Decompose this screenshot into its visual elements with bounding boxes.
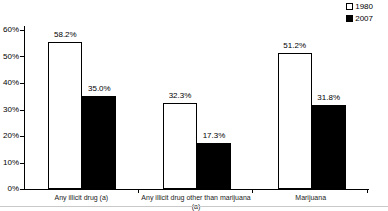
bar-column-1980-2: 51.2% xyxy=(278,30,312,189)
bar-1980-0 xyxy=(48,42,82,189)
bar-value-label: 17.3% xyxy=(203,131,226,140)
y-axis-tick-label: 30% xyxy=(0,105,19,115)
legend-entry-1980: 1980 xyxy=(346,2,373,11)
legend-entry-2007: 2007 xyxy=(346,14,373,23)
x-axis-category-label: Marijuana xyxy=(253,193,368,211)
y-axis-tick-label: 50% xyxy=(0,52,19,62)
legend-label: 1980 xyxy=(355,2,373,11)
legend-label: 2007 xyxy=(355,14,373,23)
bar-group-2: 51.2%31.8% xyxy=(254,30,369,189)
bar-column-2007-2: 31.8% xyxy=(312,30,346,189)
bar-column-1980-0: 58.2% xyxy=(48,30,82,189)
bar-column-2007-0: 35.0% xyxy=(82,30,116,189)
legend-swatch-1980 xyxy=(346,3,353,10)
bar-group-0: 58.2%35.0% xyxy=(25,30,140,189)
bar-value-label: 31.8% xyxy=(317,93,340,102)
legend: 19802007 xyxy=(346,2,373,26)
bar-2007-1 xyxy=(197,143,231,189)
y-axis-tick-label: 0% xyxy=(0,184,19,194)
y-axis-tick-label: 60% xyxy=(0,25,19,35)
bar-value-label: 58.2% xyxy=(54,30,77,39)
bar-value-label: 32.3% xyxy=(169,91,192,100)
bar-group-1: 32.3%17.3% xyxy=(140,30,255,189)
x-axis-category-label: Any illicit drug (a) xyxy=(24,193,139,211)
y-axis-tick-label: 40% xyxy=(0,78,19,88)
bar-value-label: 35.0% xyxy=(88,84,111,93)
x-axis-category-label: Any illicit drug other than marijuana (a… xyxy=(139,193,254,211)
plot-area: 58.2%35.0%32.3%17.3%51.2%31.8% xyxy=(24,30,369,190)
bar-column-2007-1: 17.3% xyxy=(197,30,231,189)
y-axis-tick-label: 20% xyxy=(0,131,19,141)
bar-value-label: 51.2% xyxy=(283,41,306,50)
bar-1980-1 xyxy=(163,103,197,189)
x-axis-labels: Any illicit drug (a)Any illicit drug oth… xyxy=(24,193,368,211)
bar-column-1980-1: 32.3% xyxy=(163,30,197,189)
legend-swatch-2007 xyxy=(346,15,353,22)
bar-2007-2 xyxy=(312,105,346,189)
bar-1980-2 xyxy=(278,53,312,189)
bar-chart: 19802007 0%10%20%30%40%50%60% 58.2%35.0%… xyxy=(0,0,388,211)
bottom-divider xyxy=(0,206,388,207)
y-axis-tick-label: 10% xyxy=(0,158,19,168)
bar-2007-0 xyxy=(82,96,116,189)
